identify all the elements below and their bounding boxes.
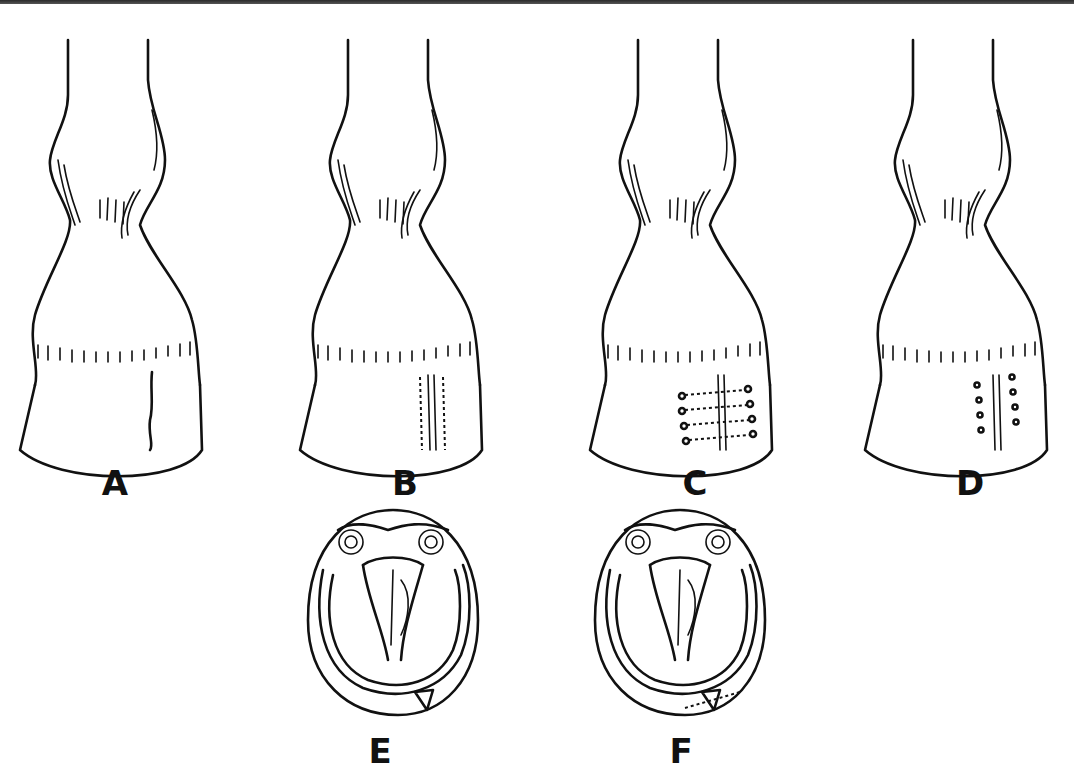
hoof-repair-figure: A B C D E xyxy=(0,0,1074,771)
panel-label-d: D xyxy=(956,463,984,503)
panel-d-drilled-holes xyxy=(865,40,1047,476)
panel-a-hoof-crack xyxy=(20,40,202,476)
panel-b-grooved-crack xyxy=(300,40,482,476)
panel-f-sole-view-stabilized xyxy=(595,510,765,715)
lacing-sutures xyxy=(679,386,756,444)
panel-label-b: B xyxy=(392,463,418,503)
panel-c-laced-crack xyxy=(590,40,772,476)
panel-label-c: C xyxy=(683,463,708,503)
crack-line xyxy=(150,372,152,450)
panel-label-a: A xyxy=(102,463,129,503)
panel-e-sole-view xyxy=(308,510,478,715)
toe-crack-notch xyxy=(415,690,433,710)
groove-margins xyxy=(420,377,445,450)
panel-label-e: E xyxy=(368,731,391,771)
panel-label-f: F xyxy=(669,731,692,771)
drill-holes xyxy=(975,375,1019,433)
crack-groove xyxy=(428,375,436,450)
